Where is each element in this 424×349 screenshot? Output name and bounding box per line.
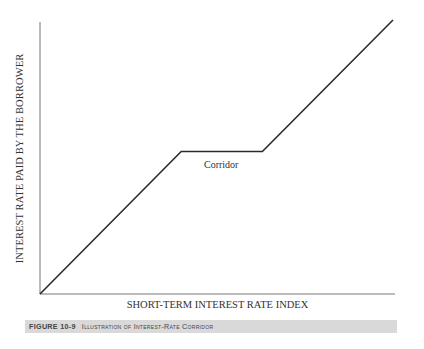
rate-line <box>40 20 393 294</box>
figure-title: Illustration of Interest-Rate Corridor <box>82 322 213 331</box>
figure-caption: FIGURE 10-9 Illustration of Interest-Rat… <box>25 320 397 333</box>
corridor-annotation: Corridor <box>204 159 238 170</box>
y-axis-label-text: INTEREST RATE PAID BY THE BORROWER <box>15 53 26 263</box>
x-axis-label: SHORT-TERM INTEREST RATE INDEX <box>40 299 395 310</box>
chart-canvas <box>0 0 424 349</box>
y-axis-label: INTEREST RATE PAID BY THE BORROWER <box>12 22 28 294</box>
figure-number: FIGURE 10-9 <box>29 322 76 331</box>
